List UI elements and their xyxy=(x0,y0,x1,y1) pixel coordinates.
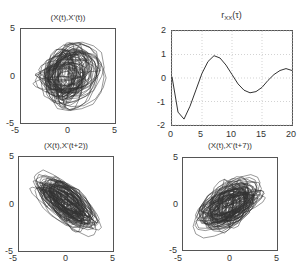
y-tick: -2 xyxy=(157,121,165,130)
x-tick: 5 xyxy=(274,254,279,263)
y-tick: 0 xyxy=(173,200,178,209)
y-tick: 5 xyxy=(10,24,15,33)
y-tick: 5 xyxy=(9,152,14,161)
y-tick: 0 xyxy=(9,200,14,209)
x-tick: 10 xyxy=(226,130,236,139)
phase-portrait-curves xyxy=(19,157,115,253)
plot-area xyxy=(182,157,278,251)
y-tick: 1 xyxy=(161,50,166,59)
x-tick: -5 xyxy=(11,126,19,135)
plot-area xyxy=(18,156,114,252)
x-tick: 20 xyxy=(286,130,296,139)
x-tick: 0 xyxy=(168,130,173,139)
x-tick: 0 xyxy=(63,254,68,263)
title-arg: (τ) xyxy=(232,10,242,20)
autocorrelation-line xyxy=(172,31,294,127)
x-tick: 0 xyxy=(227,254,232,263)
phase-portrait-curves xyxy=(183,158,279,252)
y-tick: 0 xyxy=(161,74,166,83)
panel-title: (X(t),X'(t)) xyxy=(20,13,116,22)
y-tick: -1 xyxy=(157,98,165,107)
x-tick: 5 xyxy=(110,254,115,263)
x-tick: 5 xyxy=(112,126,117,135)
panel-title: rXX(τ) xyxy=(171,10,292,21)
x-tick: -5 xyxy=(9,254,17,263)
plot-area xyxy=(20,28,116,124)
y-tick: 2 xyxy=(161,26,166,35)
x-tick: 5 xyxy=(198,130,203,139)
x-tick: 15 xyxy=(256,130,266,139)
panel-title: (X(t),X'(t+2)) xyxy=(18,141,114,150)
plot-area xyxy=(171,30,293,126)
x-tick: 0 xyxy=(65,126,70,135)
y-tick: 0 xyxy=(10,72,15,81)
x-tick: -5 xyxy=(174,254,182,263)
phase-portrait-curves xyxy=(21,29,117,125)
y-tick: 5 xyxy=(173,153,178,162)
panel-title: (X(t),X'(t+7)) xyxy=(182,141,278,150)
